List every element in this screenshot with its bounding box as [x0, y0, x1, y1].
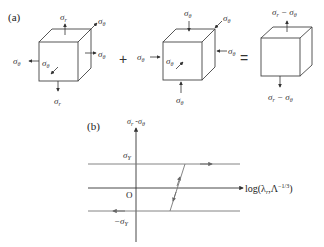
- cube-1-left-label: σθ: [13, 56, 20, 67]
- cube-2-top-label: σθ: [184, 8, 191, 19]
- panel-b-label: (b): [87, 120, 100, 133]
- x-axis-label: log(λr,Λ−1/3): [245, 183, 292, 195]
- equals-operator: =: [240, 50, 248, 66]
- origin-label: O: [126, 190, 133, 200]
- cube-1: [39, 29, 91, 81]
- transition-line: [170, 164, 185, 211]
- cube-3-bottom-label: σr − σθ: [268, 92, 293, 103]
- cube-1-back-label: σθ: [98, 16, 105, 27]
- cube-1-right-label: σθ: [98, 49, 105, 60]
- upper-level-label: σY: [123, 150, 131, 161]
- cube-3-arrows: [280, 21, 287, 87]
- cube-3: [261, 27, 312, 76]
- cube-1-bottom-label: σr: [54, 96, 61, 107]
- cube-3-top-label: σr − σθ: [272, 7, 297, 18]
- cube-2: [163, 29, 215, 80]
- cube-2-right-label: σθ: [228, 46, 235, 57]
- transition-down-arrow-icon: [173, 192, 176, 201]
- plus-operator: +: [119, 51, 127, 67]
- cube-2-bottom-label: σθ: [176, 95, 183, 106]
- y-axis-label: σr -σθ: [127, 117, 145, 127]
- figure-canvas: (a) σr σr σθ σθ σθ σθ + σθ σθ σθ σθ σθ σ…: [0, 0, 324, 247]
- cube-1-top-label: σr: [60, 12, 67, 23]
- lower-level-label: −σY: [114, 216, 129, 227]
- cube-2-front-label: σθ: [166, 56, 173, 67]
- panel-a-label: (a): [8, 11, 21, 24]
- cube-2-left-label: σθ: [137, 52, 144, 63]
- cube-1-front-label: σθ: [42, 58, 49, 69]
- cube-2-back-label: σθ: [223, 13, 230, 24]
